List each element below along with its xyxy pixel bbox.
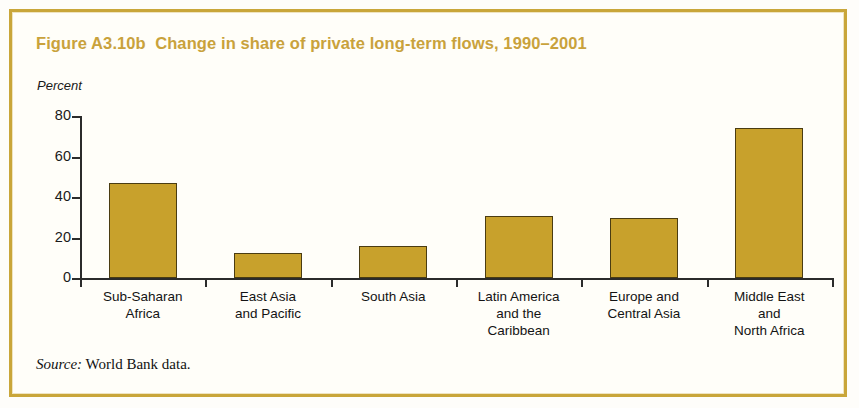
category-label: East Asia and Pacific	[205, 288, 330, 322]
source-value: World Bank data.	[82, 356, 191, 372]
x-tick-mark	[581, 278, 583, 287]
bar	[735, 128, 803, 278]
y-tick-mark	[72, 116, 81, 118]
x-tick-mark	[80, 278, 82, 287]
category-label: Latin America and the Caribbean	[456, 288, 581, 339]
y-tick-mark	[72, 197, 81, 199]
bar	[234, 253, 302, 278]
source-label: Source:	[36, 356, 82, 372]
category-label: South Asia	[331, 288, 456, 305]
y-tick-mark	[72, 157, 81, 159]
x-tick-mark	[331, 278, 333, 287]
category-label: Sub-Saharan Africa	[80, 288, 205, 322]
y-tick-label: 0	[63, 269, 71, 285]
category-label: Middle East and North Africa	[707, 288, 832, 339]
figure-title: Figure A3.10b Change in share of private…	[36, 34, 587, 53]
y-tick-label: 20	[55, 229, 71, 245]
x-tick-mark	[707, 278, 709, 287]
category-label: Europe and Central Asia	[581, 288, 706, 322]
x-tick-mark	[832, 278, 834, 287]
y-tick-label: 80	[55, 107, 71, 123]
figure-container: Figure A3.10b Change in share of private…	[0, 0, 859, 408]
bar	[485, 216, 553, 278]
source-note: Source: World Bank data.	[36, 356, 191, 373]
bar	[359, 246, 427, 278]
y-tick-label: 60	[55, 148, 71, 164]
y-axis-unit-label: Percent	[37, 78, 82, 93]
bar	[610, 218, 678, 278]
x-tick-mark	[205, 278, 207, 287]
y-tick-mark	[72, 238, 81, 240]
x-tick-mark	[456, 278, 458, 287]
bar	[109, 183, 177, 278]
y-tick-label: 40	[55, 188, 71, 204]
plot-area: 020406080 Sub-Saharan AfricaEast Asia an…	[80, 116, 832, 278]
